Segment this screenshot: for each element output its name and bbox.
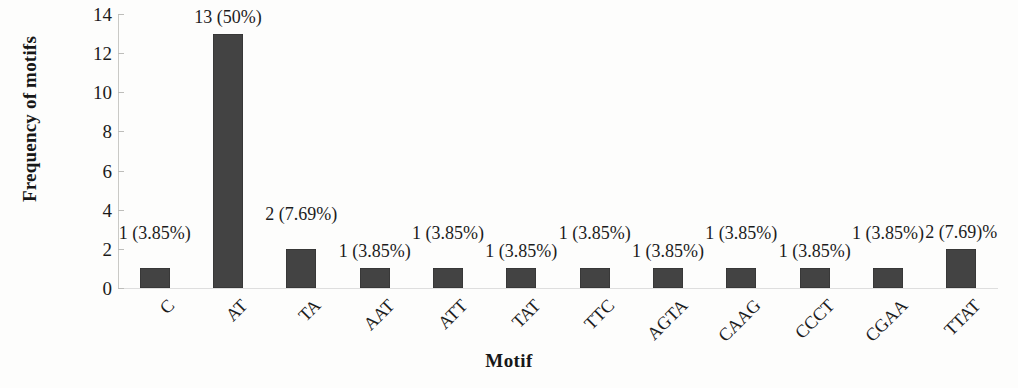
bar xyxy=(286,249,316,288)
bar-group: 1 (3.85%)TTC xyxy=(558,14,631,288)
bar xyxy=(433,268,463,288)
y-axis-tick-label: 6 xyxy=(66,162,112,181)
chart-figure: Frequency of motifs 14121086420 1 (3.85%… xyxy=(0,0,1018,388)
x-axis-tick-label: TTC xyxy=(581,296,618,333)
x-axis-tick-label: C xyxy=(156,296,177,317)
bar xyxy=(800,268,830,288)
bar-value-label: 1 (3.85%) xyxy=(779,242,851,260)
bar xyxy=(946,249,976,288)
bar xyxy=(726,268,756,288)
bar-value-label: 1 (3.85%) xyxy=(705,224,777,242)
x-axis-tick-label: TA xyxy=(295,296,324,325)
bar-group: 2 (7.69)%TTAT xyxy=(925,14,998,288)
bar-value-label: 1 (3.85%) xyxy=(485,242,557,260)
x-axis-tick-label: CCCT xyxy=(791,296,837,342)
bar-value-label: 13 (50%) xyxy=(194,8,261,26)
bar-group: 1 (3.85%)AAT xyxy=(338,14,411,288)
bar-value-label: 1 (3.85%) xyxy=(559,224,631,242)
x-axis-tick-label: CGAA xyxy=(862,296,911,345)
y-axis-tick-label: 2 xyxy=(66,240,112,259)
y-axis-tick xyxy=(118,249,124,250)
x-axis-tick-label: TAT xyxy=(509,296,544,331)
bar-value-label: 2 (7.69)% xyxy=(925,223,997,241)
bar-value-label: 2 (7.69%) xyxy=(265,205,337,223)
bar-group: 1 (3.85%)TAT xyxy=(485,14,558,288)
bar xyxy=(580,268,610,288)
bar-group: 1 (3.85%)ATT xyxy=(411,14,484,288)
bar-group: 2 (7.69%)TA xyxy=(265,14,338,288)
y-axis-tick xyxy=(118,131,124,132)
bar xyxy=(506,268,536,288)
bar-value-label: 1 (3.85%) xyxy=(412,224,484,242)
bar-group: 1 (3.85%)AGTA xyxy=(631,14,704,288)
bar xyxy=(213,34,243,288)
x-axis-line xyxy=(118,288,998,289)
bar xyxy=(140,268,170,288)
y-axis-tick-label: 0 xyxy=(66,279,112,298)
x-axis-tick-label: AT xyxy=(222,296,250,324)
bar xyxy=(653,268,683,288)
y-axis-tick xyxy=(118,14,124,15)
bar-group: 1 (3.85%)CGAA xyxy=(851,14,924,288)
bar-group: 1 (3.85%)CCCT xyxy=(778,14,851,288)
x-axis-tick-label: TTAT xyxy=(941,296,984,339)
y-axis-tick xyxy=(118,92,124,93)
bar-value-label: 1 (3.85%) xyxy=(339,242,411,260)
y-axis-title: Frequency of motifs xyxy=(19,19,41,219)
y-axis-tick-label: 14 xyxy=(66,5,112,24)
y-axis-tick-label: 10 xyxy=(66,83,112,102)
y-axis-tick xyxy=(118,210,124,211)
y-axis-tick-label: 4 xyxy=(66,201,112,220)
bar-group: 1 (3.85%)CAAG xyxy=(705,14,778,288)
y-axis-tick xyxy=(118,288,124,289)
x-axis-tick-label: AAT xyxy=(360,296,397,333)
bar-value-label: 1 (3.85%) xyxy=(852,224,924,242)
x-axis-title: Motif xyxy=(0,350,1018,372)
y-axis-tick-label: 12 xyxy=(66,44,112,63)
bar-value-label: 1 (3.85%) xyxy=(119,224,191,242)
y-axis-tick-label-group: 14121086420 xyxy=(56,0,112,388)
bar xyxy=(360,268,390,288)
bar-group: 1 (3.85%)C xyxy=(118,14,191,288)
plot-area: 1 (3.85%)C13 (50%)AT2 (7.69%)TA1 (3.85%)… xyxy=(118,14,998,288)
y-axis-tick-label: 8 xyxy=(66,122,112,141)
x-axis-tick-label: CAAG xyxy=(715,296,764,345)
bar xyxy=(873,268,903,288)
bar-value-label: 1 (3.85%) xyxy=(632,242,704,260)
y-axis-tick xyxy=(118,53,124,54)
bar-group: 13 (50%)AT xyxy=(191,14,264,288)
x-axis-tick-label: AGTA xyxy=(644,296,691,343)
y-axis-tick xyxy=(118,171,124,172)
x-axis-tick-label: ATT xyxy=(435,296,471,332)
